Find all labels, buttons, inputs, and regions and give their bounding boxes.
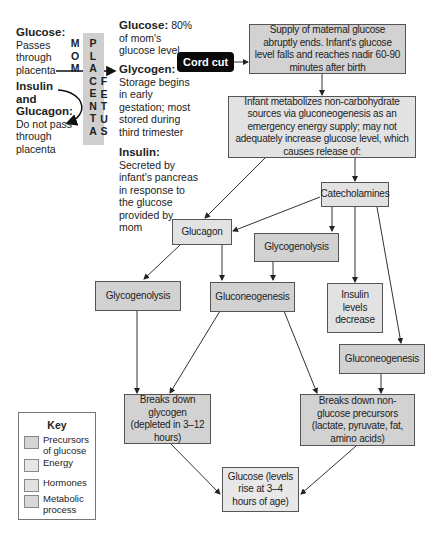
fetus-letters: F E T U S <box>98 75 110 138</box>
fetal-glucose-note: Glucose: 80% of mom's glucose level <box>119 19 199 57</box>
letter: M <box>69 37 81 50</box>
insulin-glucagon-note: Insulin and Glucagon: Do not pass throug… <box>16 80 73 155</box>
letter: U <box>98 113 110 126</box>
glycogenolysis-mid-node: Glycogenolysis <box>254 233 339 262</box>
maternal-glucose-note: Glucose: Passes through placenta <box>16 26 65 76</box>
glucose-final-node: Glucose (levels rise at 3–4 hours of age… <box>222 467 299 512</box>
key-label: Hormones <box>43 477 87 488</box>
letter: A <box>87 62 99 75</box>
note-line: stored during <box>119 113 180 125</box>
note-title: Glucagon: <box>16 105 73 117</box>
key-item-precursors: Precursors of glucose <box>24 434 95 456</box>
note-line: Passes <box>16 39 50 51</box>
supply-ends-node: Supply of maternal glucose abruptly ends… <box>249 24 406 74</box>
note-title: and <box>16 93 36 105</box>
letter: L <box>87 50 99 63</box>
letter: P <box>87 37 99 50</box>
key-title: Key <box>19 419 95 431</box>
note-line: in response to <box>119 184 185 196</box>
insulin-decrease-node: Insulin levels decrease <box>327 283 383 333</box>
note-line: glucose level <box>119 44 180 56</box>
note-title: Insulin: <box>119 146 160 158</box>
note-line: the glucose <box>119 196 173 208</box>
note-line: gestation; most <box>119 101 190 113</box>
key-item-metabolic: Metabolic process <box>24 493 95 515</box>
note-line: third trimester <box>119 126 183 138</box>
breaks-down-glycogen-node: Breaks down glycogen (depleted in 3–12 h… <box>124 394 211 444</box>
key-label: Energy <box>43 457 73 468</box>
legend-key: Key Precursors of glucose Energy Hormone… <box>18 412 96 520</box>
note-title: Glycogen: <box>119 63 175 75</box>
maternal-glucose-title: Glucose: <box>16 26 65 38</box>
gluconeogenesis-mid-node: Gluconeogenesis <box>210 282 295 312</box>
note-title: Glucose: <box>119 19 168 31</box>
gluconeogenesis-right-node: Gluconeogenesis <box>339 344 425 374</box>
swatch <box>24 436 39 449</box>
glycogenolysis-left-node: Glycogenolysis <box>95 281 181 311</box>
note-line: placenta <box>16 143 56 155</box>
note-line: Secreted by <box>119 159 175 171</box>
note-line: 80% <box>171 19 192 31</box>
infant-metabolizes-node: Infant metabolizes non-carbohydrate sour… <box>228 96 416 158</box>
swatch <box>24 459 39 472</box>
glycogen-note: Glycogen: Storage begins in early gestat… <box>119 63 190 138</box>
breaks-down-nonglucose-node: Breaks down non-glucose precursors (lact… <box>300 394 415 446</box>
key-label: Metabolic process <box>43 493 95 515</box>
letter: S <box>98 125 110 138</box>
key-item-energy: Energy <box>24 457 95 472</box>
swatch <box>24 479 39 492</box>
mom-letters: M O M <box>69 37 81 75</box>
note-line: infant's pancreas <box>119 171 198 183</box>
note-line: through <box>16 130 52 142</box>
letter: F <box>98 75 110 88</box>
note-title: Insulin <box>16 80 53 92</box>
letter: T <box>98 100 110 113</box>
key-item-hormones: Hormones <box>24 477 95 492</box>
note-line: in early <box>119 88 153 100</box>
note-line: Storage begins <box>119 76 190 88</box>
letter: O <box>69 50 81 63</box>
catecholamines-node: Catecholamines <box>321 182 389 207</box>
letter: E <box>98 88 110 101</box>
note-line: of mom's <box>119 32 161 44</box>
note-line: through <box>16 51 52 63</box>
note-line: provided by <box>119 209 173 221</box>
note-line: placenta <box>16 64 56 76</box>
letter: M <box>69 62 81 75</box>
swatch <box>24 495 39 508</box>
glucagon-node: Glucagon <box>172 219 232 245</box>
cord-cut-node: Cord cut <box>177 52 234 72</box>
note-line: mom <box>119 221 142 233</box>
note-line: Do not pass <box>16 118 72 130</box>
key-label: Precursors of glucose <box>43 434 95 456</box>
